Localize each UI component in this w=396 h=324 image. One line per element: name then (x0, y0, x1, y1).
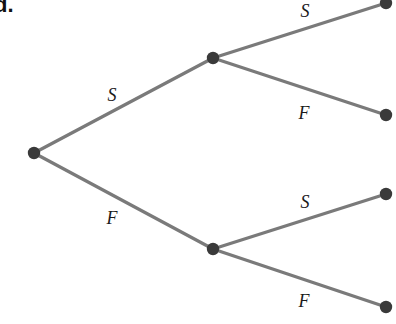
tree-diagram: SFSFSF (0, 0, 396, 324)
edge-label-FS: S (301, 192, 310, 212)
edge-S-SS (213, 3, 386, 58)
tree-nodes (28, 0, 392, 313)
edge-root-S (34, 58, 213, 153)
edge-label-SF: F (298, 103, 311, 123)
node-root (28, 147, 40, 159)
node-S (207, 52, 219, 64)
edge-labels: SFSFSF (106, 1, 311, 311)
edge-root-F (34, 153, 213, 249)
node-SS (380, 0, 392, 9)
tree-edges (34, 3, 386, 307)
node-F (207, 243, 219, 255)
edge-label-S: S (108, 85, 117, 105)
edge-label-F: F (106, 208, 119, 228)
node-SF (380, 109, 392, 121)
edge-F-FS (213, 194, 386, 249)
node-FF (380, 301, 392, 313)
edge-label-SS: S (301, 1, 310, 21)
node-FS (380, 188, 392, 200)
edge-label-FF: F (298, 291, 311, 311)
